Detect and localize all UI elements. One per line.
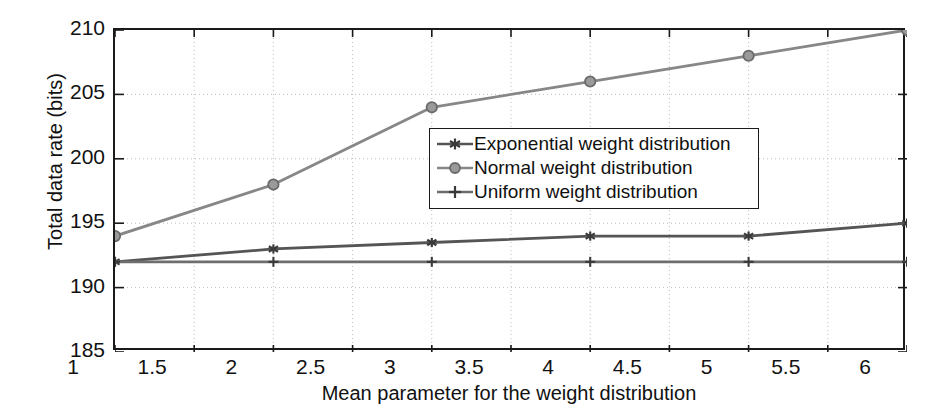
x-tick-label: 4.5 xyxy=(587,355,667,379)
star-marker-icon xyxy=(436,134,474,154)
legend-label-exponential: Exponential weight distribution xyxy=(474,134,731,154)
x-tick-label: 2 xyxy=(191,355,271,379)
x-tick-label: 1 xyxy=(33,355,113,379)
legend-item-exponential: Exponential weight distribution xyxy=(436,132,752,156)
plus-marker-icon xyxy=(436,182,474,202)
circle-marker-icon xyxy=(436,158,474,178)
legend-label-uniform: Uniform weight distribution xyxy=(474,182,698,202)
chart-legend: Exponential weight distribution Normal w… xyxy=(429,128,759,209)
x-tick-label: 2.5 xyxy=(271,355,351,379)
chart-figure: Total data rate (bits) Mean parameter fo… xyxy=(0,0,929,417)
x-tick-label: 5 xyxy=(667,355,747,379)
x-tick-label: 1.5 xyxy=(112,355,192,379)
y-tick-label: 185 xyxy=(5,338,105,362)
legend-label-normal: Normal weight distribution xyxy=(474,158,693,178)
x-tick-label: 5.5 xyxy=(746,355,826,379)
x-axis-label: Mean parameter for the weight distributi… xyxy=(113,382,905,405)
x-tick-label: 4 xyxy=(508,355,588,379)
y-axis-label: Total data rate (bits) xyxy=(44,12,67,312)
legend-item-normal: Normal weight distribution xyxy=(436,156,752,180)
x-tick-label: 3.5 xyxy=(429,355,509,379)
legend-item-uniform: Uniform weight distribution xyxy=(436,180,752,204)
x-tick-label: 3 xyxy=(350,355,430,379)
x-tick-label: 6 xyxy=(825,355,905,379)
